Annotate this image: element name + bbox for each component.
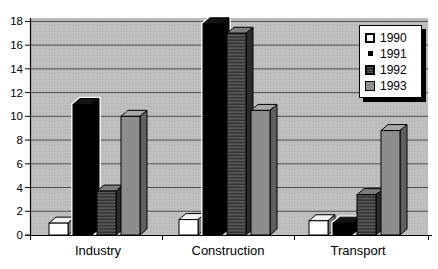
y-tick-label-0: 0 [17,229,23,241]
legend-marker-1993-icon [365,81,375,91]
bar-1991-industry [73,98,99,235]
bar-1993-industry [121,110,147,235]
legend-marker-1990-icon [365,33,375,43]
bar-1992-construction [227,27,253,235]
legend-item-1990: 1990 [365,30,419,45]
y-tick-label-18: 18 [10,15,23,27]
y-tick-label-12: 12 [10,87,23,99]
bar-1992-industry [97,185,123,235]
legend-label-1990: 1990 [380,31,407,45]
category-label-transport: Transport [330,243,386,258]
y-tick-label-4: 4 [17,182,24,194]
bar-1990-transport [309,215,335,235]
bar-1993-transport [381,125,407,235]
legend-item-1993: 1993 [365,78,419,93]
y-tick-label-8: 8 [17,134,23,146]
legend-marker-1991-icon [368,51,373,56]
bar-1990-industry [49,217,75,235]
y-tick-label-10: 10 [10,110,23,122]
legend-item-1992: 1992 [365,62,419,77]
bar-1991-transport [333,217,359,235]
y-tick-label-16: 16 [10,39,23,51]
y-tick-label-14: 14 [10,63,23,75]
legend-label-1991: 1991 [380,47,407,61]
legend-item-1991: 1991 [365,46,419,61]
bar-1992-transport [357,189,383,235]
category-label-industry: Industry [75,243,122,258]
bar-1990-construction [179,214,205,235]
legend-label-1992: 1992 [380,63,407,77]
category-label-construction: Construction [192,243,265,258]
y-tick-label-6: 6 [17,158,23,170]
legend-label-1993: 1993 [380,79,407,93]
bar-1993-construction [251,104,277,235]
legend-marker-1992-icon [365,65,375,75]
legend: 1990 1991 1992 1993 [359,25,422,98]
bar-1991-construction [203,18,229,235]
y-tick-label-2: 2 [17,205,23,217]
chart-container: 024681012141618IndustryConstructionTrans… [0,0,438,269]
